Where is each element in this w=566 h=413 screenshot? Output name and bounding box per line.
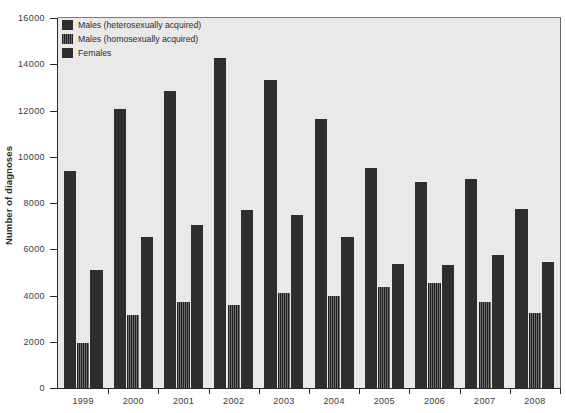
x-axis-tick-label: 2004 — [323, 396, 344, 406]
x-axis-tick — [309, 389, 310, 394]
y-axis-tick-label: 0 — [40, 383, 45, 393]
x-axis-tick-label: 2008 — [524, 396, 545, 406]
bar — [515, 209, 527, 388]
x-axis-tick-label: 2002 — [223, 396, 244, 406]
x-axis-tick — [359, 389, 360, 394]
bar — [492, 255, 504, 388]
legend-item: Females — [62, 48, 201, 58]
y-axis-tick — [50, 249, 58, 250]
bar — [378, 287, 390, 388]
bar — [428, 283, 440, 388]
legend-item: Males (homosexually acquired) — [62, 34, 201, 44]
y-axis-title: Number of diagnoses — [0, 0, 18, 390]
legend-item-label: Males (heterosexually acquired) — [78, 20, 201, 30]
legend-item-label: Females — [78, 48, 111, 58]
y-axis-tick — [50, 388, 58, 389]
bar — [415, 182, 427, 388]
legend-item: Males (heterosexually acquired) — [62, 20, 201, 30]
bar — [191, 225, 203, 388]
x-axis-tick-label: 1999 — [72, 396, 93, 406]
bar — [114, 109, 126, 388]
y-axis-tick-label: 10000 — [18, 152, 45, 162]
bar — [164, 91, 176, 388]
y-axis-tick — [50, 342, 58, 343]
x-axis-tick — [460, 389, 461, 394]
bar — [529, 313, 541, 388]
bar — [264, 80, 276, 388]
bar — [228, 305, 240, 388]
x-axis-tick-label: 2006 — [424, 396, 445, 406]
x-axis-tick — [409, 389, 410, 394]
bar — [392, 264, 404, 388]
bar — [328, 296, 340, 389]
bar — [177, 302, 189, 388]
chart-legend: Males (heterosexually acquired)Males (ho… — [62, 20, 201, 58]
bar — [542, 262, 554, 388]
x-axis-tick-label: 2000 — [123, 396, 144, 406]
y-axis-tick — [50, 64, 58, 65]
bar — [479, 302, 491, 388]
bar — [465, 179, 477, 388]
y-axis-title-label: Number of diagnoses — [4, 145, 15, 244]
y-axis-tick — [50, 157, 58, 158]
bar-chart: Number of diagnoses 02000400060008000100… — [0, 0, 566, 413]
bar — [214, 58, 226, 388]
bar — [365, 168, 377, 388]
y-axis-tick — [50, 296, 58, 297]
y-axis-tick-label: 16000 — [18, 13, 45, 23]
legend-item-label: Males (homosexually acquired) — [78, 34, 198, 44]
bar — [442, 265, 454, 388]
y-axis-tick — [50, 111, 58, 112]
legend-swatch-icon — [62, 34, 73, 44]
y-axis-tick-label: 8000 — [23, 198, 45, 208]
x-axis-tick — [209, 389, 210, 394]
x-axis-tick — [108, 389, 109, 394]
bar — [315, 119, 327, 388]
bar — [278, 293, 290, 388]
x-axis-tick — [560, 389, 561, 394]
y-axis-tick — [50, 18, 58, 19]
x-axis-tick-label: 2001 — [173, 396, 194, 406]
bar — [141, 237, 153, 388]
x-axis-tick — [510, 389, 511, 394]
y-axis-tick-label: 6000 — [23, 244, 45, 254]
x-axis-tick-label: 2007 — [474, 396, 495, 406]
y-axis-tick-label: 14000 — [18, 59, 45, 69]
bar — [90, 270, 102, 388]
legend-swatch-icon — [62, 20, 73, 30]
bar — [77, 343, 89, 388]
bar — [127, 315, 139, 388]
y-axis-tick-label: 2000 — [23, 337, 45, 347]
bar — [291, 215, 303, 388]
x-axis-tick — [259, 389, 260, 394]
legend-swatch-icon — [62, 48, 73, 58]
y-axis-tick-label: 12000 — [18, 106, 45, 116]
x-axis-tick-label: 2005 — [374, 396, 395, 406]
x-axis-tick — [158, 389, 159, 394]
y-axis-tick — [50, 203, 58, 204]
bar — [341, 237, 353, 388]
x-axis-tick-label: 2003 — [273, 396, 294, 406]
bar — [64, 171, 76, 388]
bar — [241, 210, 253, 388]
y-axis-tick-label: 4000 — [23, 291, 45, 301]
